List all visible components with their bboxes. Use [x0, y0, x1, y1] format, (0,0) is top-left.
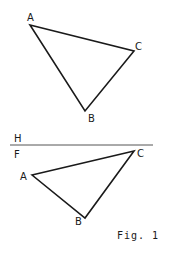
triangle-abc-top	[30, 25, 134, 111]
label-c-front: C	[137, 148, 144, 159]
label-h: H	[14, 133, 22, 144]
label-b-top: B	[88, 113, 95, 124]
label-c-top: C	[135, 41, 142, 52]
label-f: F	[14, 149, 20, 160]
figure-caption: Fig. 1	[117, 230, 159, 241]
label-b-front: B	[75, 216, 82, 227]
front-view-triangle: A C B	[20, 148, 144, 227]
triangle-abc-front	[32, 151, 134, 218]
descriptive-geometry-figure: A C B H F A C B Fig. 1	[0, 0, 171, 253]
label-a-top: A	[27, 12, 34, 23]
fold-line-group: H F	[10, 133, 153, 160]
label-a-front: A	[20, 171, 27, 182]
top-view-triangle: A C B	[27, 12, 142, 124]
